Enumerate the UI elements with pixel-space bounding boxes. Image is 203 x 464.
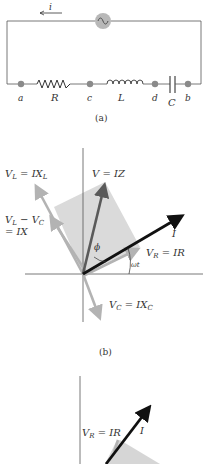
resistor-icon	[37, 80, 70, 88]
v-label: V = IZ	[92, 168, 126, 179]
node-c	[87, 81, 93, 87]
node-label-b: b	[185, 93, 191, 103]
inductor-icon	[107, 80, 143, 84]
phasor-diagram-c: VR = IR I	[80, 376, 160, 464]
phi-label: ϕ	[94, 242, 100, 252]
phasor-diagram-b: VL = IXL V = IZ VL − VC = IX I ϕ VR = IR…	[5, 148, 203, 357]
resistor-label: R	[50, 92, 59, 103]
current-phasor-label-c: I	[139, 425, 145, 436]
figure-canvas: i a R c L d	[0, 0, 203, 464]
vc-label: VC = IXC	[109, 299, 153, 312]
vr-label-c: VR = IR	[82, 427, 121, 440]
node-d	[152, 81, 158, 87]
vr-label: VR = IR	[146, 247, 185, 260]
phasor-parallelogram-c	[105, 440, 160, 464]
node-a	[18, 81, 24, 87]
inductor-label: L	[117, 92, 125, 103]
ac-source-icon	[95, 13, 111, 29]
phasor-parallelogram	[54, 182, 140, 274]
node-b	[185, 81, 191, 87]
node-label-d: d	[152, 93, 158, 103]
wt-label: ωt	[131, 261, 140, 269]
capacitor-label: C	[168, 97, 176, 108]
node-label-a: a	[18, 93, 23, 103]
current-phasor-label: I	[171, 228, 177, 239]
node-label-c: c	[87, 93, 92, 103]
circuit-diagram: i a R c L d	[7, 2, 201, 123]
capacitor-icon	[170, 76, 175, 93]
vc-phasor-arrow	[83, 274, 99, 316]
ix-label: = IX	[5, 226, 29, 237]
caption-b: (b)	[99, 347, 112, 357]
caption-a: (a)	[95, 113, 107, 123]
current-label: i	[49, 2, 52, 12]
vl-label: VL = IXL	[5, 168, 48, 181]
